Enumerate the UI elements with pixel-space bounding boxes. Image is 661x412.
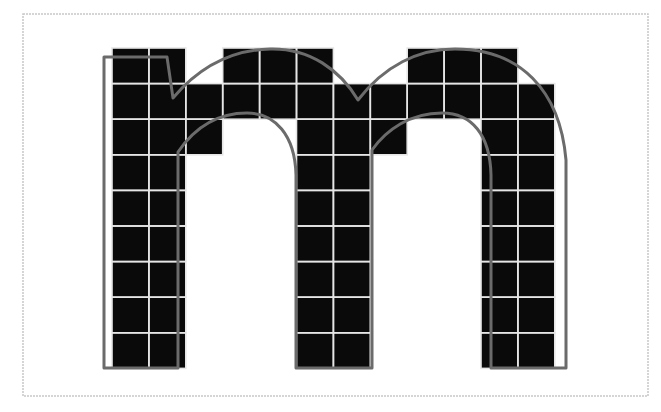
pixel-cell <box>149 190 186 226</box>
pixel-cell <box>260 48 297 84</box>
pixel-cell <box>518 119 555 155</box>
pixel-cell <box>112 226 149 262</box>
pixel-cell <box>297 155 334 191</box>
pixel-cell <box>518 262 555 298</box>
pixel-cell <box>112 155 149 191</box>
pixel-cell <box>297 297 334 333</box>
pixel-cell <box>297 262 334 298</box>
pixel-cell <box>333 226 370 262</box>
pixel-cell <box>481 84 518 120</box>
pixel-cell <box>333 333 370 369</box>
pixel-cell <box>297 226 334 262</box>
pixel-cell <box>112 297 149 333</box>
pixel-cell <box>518 226 555 262</box>
pixel-cell <box>481 262 518 298</box>
pixel-cell <box>149 262 186 298</box>
pixel-cell <box>481 333 518 369</box>
pixel-cell <box>518 297 555 333</box>
pixel-cell <box>297 333 334 369</box>
pixel-cell <box>333 119 370 155</box>
diagram-canvas <box>0 0 661 412</box>
pixel-cell <box>518 155 555 191</box>
pixel-cell <box>297 190 334 226</box>
pixel-cell <box>297 84 334 120</box>
pixel-cell <box>333 262 370 298</box>
pixel-cell <box>481 226 518 262</box>
pixel-cell <box>481 155 518 191</box>
pixel-cell <box>112 119 149 155</box>
pixel-cell <box>370 84 407 120</box>
pixel-cell <box>333 297 370 333</box>
pixel-cell <box>297 119 334 155</box>
pixel-cell <box>112 333 149 369</box>
pixel-cell <box>518 190 555 226</box>
pixel-cell <box>260 84 297 120</box>
pixel-cell <box>333 190 370 226</box>
pixel-cell <box>112 84 149 120</box>
pixel-cell <box>186 84 223 120</box>
pixel-cell <box>112 48 149 84</box>
pixel-cell <box>112 190 149 226</box>
pixel-cell <box>333 155 370 191</box>
pixel-cell <box>149 226 186 262</box>
glyph-raster-diagram <box>0 0 661 412</box>
pixel-cell <box>149 155 186 191</box>
pixel-cell <box>112 262 149 298</box>
pixel-cell <box>481 190 518 226</box>
pixel-cell <box>444 48 481 84</box>
pixel-cell <box>149 297 186 333</box>
pixel-cell <box>481 297 518 333</box>
pixel-cell <box>149 333 186 369</box>
pixel-cell <box>518 333 555 369</box>
